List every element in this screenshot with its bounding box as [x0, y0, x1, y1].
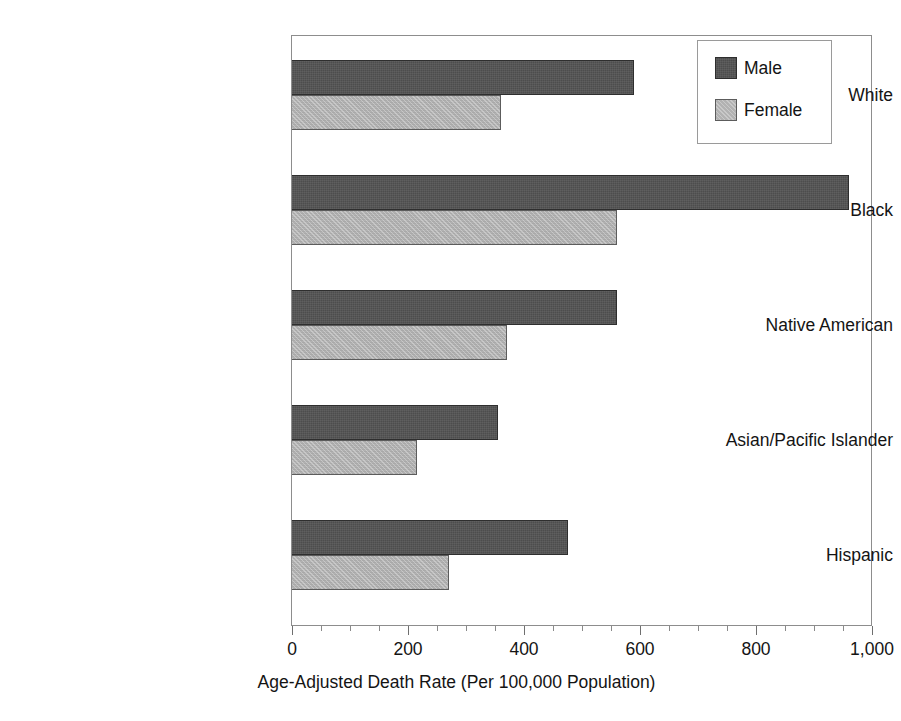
x-tick-minor — [437, 626, 438, 631]
x-tick-minor — [553, 626, 554, 631]
x-tick-minor — [495, 626, 496, 631]
x-tick-label: 800 — [741, 638, 770, 660]
bar-white-male — [292, 60, 634, 95]
x-tick-major — [640, 626, 641, 635]
legend-item-male: Male — [715, 57, 782, 79]
x-tick-label: 1,000 — [850, 638, 894, 660]
x-tick-label: 0 — [287, 638, 297, 660]
category-label-hispanic: Hispanic — [616, 545, 901, 565]
bar-asian-pacific-islander-male — [292, 405, 498, 440]
x-tick-minor — [843, 626, 844, 631]
x-tick-minor — [466, 626, 467, 631]
x-tick-minor — [611, 626, 612, 631]
x-tick-major — [408, 626, 409, 635]
x-tick-label: 400 — [509, 638, 538, 660]
x-tick-major — [872, 626, 873, 635]
x-tick-label: 200 — [393, 638, 422, 660]
x-tick-label: 600 — [625, 638, 654, 660]
x-tick-minor — [379, 626, 380, 631]
x-tick-major — [756, 626, 757, 635]
legend-item-female: Female — [715, 99, 802, 121]
x-axis-title: Age-Adjusted Death Rate (Per 100,000 Pop… — [0, 672, 901, 693]
x-tick-minor — [698, 626, 699, 631]
male-swatch-icon — [715, 57, 737, 79]
x-tick-minor — [814, 626, 815, 631]
category-label-native-american: Native American — [616, 315, 901, 335]
bar-black-female — [292, 210, 617, 245]
x-tick-major — [524, 626, 525, 635]
bar-asian-pacific-islander-female — [292, 440, 417, 475]
bar-hispanic-male — [292, 520, 568, 555]
x-tick-major — [292, 626, 293, 635]
chart-legend: Male Female — [697, 40, 832, 144]
x-tick-minor — [785, 626, 786, 631]
category-label-black: Black — [616, 200, 901, 220]
female-swatch-icon — [715, 99, 737, 121]
legend-label-female: Female — [744, 100, 802, 120]
bar-native-american-female — [292, 325, 507, 360]
bar-chart-figure: WhiteBlackNative AmericanAsian/Pacific I… — [0, 0, 901, 721]
bar-hispanic-female — [292, 555, 449, 590]
category-label-asian-pacific-islander: Asian/Pacific Islander — [616, 430, 901, 450]
x-tick-minor — [582, 626, 583, 631]
bar-white-female — [292, 95, 501, 130]
legend-label-male: Male — [744, 58, 782, 78]
x-tick-minor — [321, 626, 322, 631]
x-axis-title-text: Age-Adjusted Death Rate (Per 100,000 Pop… — [246, 672, 656, 692]
x-tick-minor — [669, 626, 670, 631]
bar-native-american-male — [292, 290, 617, 325]
x-tick-minor — [350, 626, 351, 631]
x-tick-minor — [727, 626, 728, 631]
